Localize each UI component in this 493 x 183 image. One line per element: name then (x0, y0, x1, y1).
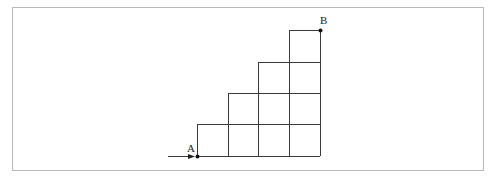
staircase-grid-diagram: A B (0, 0, 493, 183)
point-a-label: A (187, 142, 195, 154)
arrow-to-a-icon (168, 154, 195, 159)
point-b-dot (319, 29, 323, 33)
point-a-dot (196, 155, 200, 159)
point-b-label: B (320, 14, 327, 26)
